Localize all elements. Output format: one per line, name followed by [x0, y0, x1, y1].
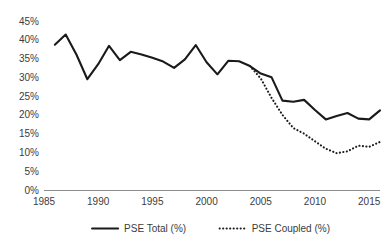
x-tick-label: 2015 — [358, 196, 381, 207]
y-tick-label: 35% — [19, 53, 39, 64]
y-axis-tick-labels: 0%5%10%15%20%25%30%35%40%45% — [19, 16, 39, 196]
x-tick-label: 2005 — [250, 196, 273, 207]
series-line-total — [55, 35, 380, 120]
line-chart: 0%5%10%15%20%25%30%35%40%45% 19851990199… — [0, 0, 386, 248]
y-tick-label: 15% — [19, 128, 39, 139]
y-tick-label: 25% — [19, 91, 39, 102]
y-tick-label: 30% — [19, 72, 39, 83]
y-tick-label: 10% — [19, 147, 39, 158]
x-tick-label: 2000 — [195, 196, 218, 207]
legend-label-coupled: PSE Coupled (%) — [252, 223, 330, 234]
x-tick-label: 1985 — [33, 196, 56, 207]
chart-legend: PSE Total (%)PSE Coupled (%) — [92, 223, 330, 234]
x-axis-tick-labels: 1985199019952000200520102015 — [33, 196, 381, 207]
x-tick-label: 2010 — [304, 196, 327, 207]
x-tick-label: 1995 — [141, 196, 164, 207]
chart-container: 0%5%10%15%20%25%30%35%40%45% 19851990199… — [0, 0, 386, 248]
y-tick-label: 45% — [19, 16, 39, 27]
data-series-group — [55, 35, 380, 154]
y-tick-label: 0% — [25, 185, 40, 196]
y-tick-label: 20% — [19, 109, 39, 120]
x-tick-label: 1990 — [87, 196, 110, 207]
y-tick-label: 5% — [25, 166, 40, 177]
legend-label-total: PSE Total (%) — [124, 223, 186, 234]
y-tick-label: 40% — [19, 34, 39, 45]
